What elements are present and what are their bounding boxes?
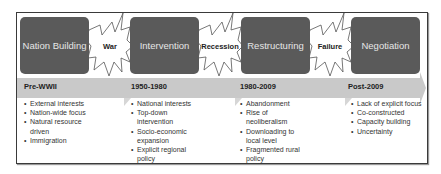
list-item: Natural resource driven bbox=[24, 117, 86, 135]
transition-label-failure: Failure bbox=[305, 42, 355, 51]
period-label: 1950-1980 bbox=[131, 82, 167, 91]
stage-label: Intervention bbox=[140, 40, 190, 51]
stage-label: Negotiation bbox=[361, 40, 409, 51]
transition-label-war: War bbox=[85, 42, 135, 51]
list-item: Socio-economic expansion bbox=[131, 127, 197, 145]
stage-label: Nation Building bbox=[23, 40, 87, 51]
list-item: Immigration bbox=[24, 136, 86, 145]
list-item: Abandonment bbox=[240, 99, 306, 108]
list-item: Downloading to local level bbox=[240, 127, 306, 145]
list-item: Explicit regional policy bbox=[131, 145, 197, 163]
stage-box-negotiation: Negotiation bbox=[351, 17, 420, 74]
stage-box-nation-building: Nation Building bbox=[20, 17, 89, 74]
list-item: External interests bbox=[24, 99, 86, 108]
period-label: 1980-2009 bbox=[240, 82, 276, 91]
period-label: Post-2009 bbox=[348, 82, 383, 91]
list-item: Uncertainty bbox=[351, 127, 427, 136]
list-item: National interests bbox=[131, 99, 197, 108]
bullet-list-post-2009: Lack of explicit focus Co-constructed Ca… bbox=[351, 99, 427, 136]
list-item: Fragmented rural policy bbox=[240, 145, 306, 163]
list-item: Capacity building bbox=[351, 117, 427, 126]
list-item: Top-down intervention bbox=[131, 108, 197, 126]
stage-box-intervention: Intervention bbox=[130, 17, 199, 74]
bullet-list-1950-1980: National interests Top-down intervention… bbox=[131, 99, 197, 163]
stage-box-restructuring: Restructuring bbox=[241, 17, 310, 74]
transition-label-recession: Recession bbox=[195, 42, 245, 51]
bullet-list-pre-wwii: External interests Nation-wide focus Nat… bbox=[24, 99, 86, 145]
list-item: Rise of neoliberalism bbox=[240, 108, 306, 126]
bullet-list-1980-2009: Abandonment Rise of neoliberalism Downlo… bbox=[240, 99, 306, 163]
list-item: Lack of explicit focus bbox=[351, 99, 427, 108]
period-label: Pre-WWII bbox=[24, 82, 57, 91]
stage-label: Restructuring bbox=[247, 40, 304, 51]
list-item: Co-constructed bbox=[351, 108, 427, 117]
list-item: Nation-wide focus bbox=[24, 108, 86, 117]
